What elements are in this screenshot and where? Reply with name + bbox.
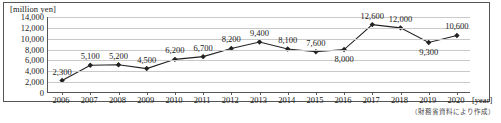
y-axis-tick-label: 2,000 <box>25 77 44 87</box>
data-point-label: 12,000 <box>388 14 413 24</box>
y-axis-tick-label: 4,000 <box>25 66 44 76</box>
x-axis-tick-label: 2016 <box>335 95 352 105</box>
x-axis-tick-label: 2013 <box>250 95 267 105</box>
data-point-label: 6,200 <box>164 45 185 55</box>
data-point-marker <box>200 54 205 59</box>
x-axis-tick-label: 2006 <box>53 95 70 105</box>
x-axis-tick-label: 2011 <box>194 95 211 105</box>
x-axis-tick-label: 2015 <box>306 95 323 105</box>
x-axis-tick-label: 2008 <box>109 95 126 105</box>
data-point-marker <box>454 33 459 38</box>
x-axis-tick-label: 2014 <box>278 95 295 105</box>
data-point-marker <box>426 40 431 45</box>
source-note: （財務省資料により作成） <box>411 106 495 116</box>
y-axis-tick-label: 0 <box>40 88 44 98</box>
x-axis-tick-label: 2007 <box>81 95 98 105</box>
x-axis-tick-label: 2017 <box>363 95 380 105</box>
data-point-label: 6,700 <box>193 43 214 53</box>
data-point-label: 8,200 <box>221 34 242 44</box>
x-axis-tick-labels: 2006200720082009201020112012201320142015… <box>47 95 470 109</box>
data-point-marker <box>116 62 121 67</box>
y-axis-tick-label: 8,000 <box>25 45 44 55</box>
data-point-label: 5,200 <box>108 51 129 61</box>
data-point-marker <box>88 63 93 68</box>
data-point-label: 12,600 <box>360 11 385 21</box>
data-point-label: 8,100 <box>277 35 298 45</box>
data-point-label: 9,300 <box>418 47 439 57</box>
data-point-label: 9,400 <box>249 28 270 38</box>
chart-figure: [million yen] 02,0004,0006,0008,00010,00… <box>0 0 501 123</box>
gridline <box>48 82 470 83</box>
x-axis-caption: [year] <box>472 95 492 105</box>
data-point-label: 10,600 <box>444 21 469 31</box>
plot-area: 2,3005,1005,2004,5006,2006,7008,2009,400… <box>47 17 470 93</box>
data-point-label: 4,500 <box>136 55 157 65</box>
data-point-label: 8,000 <box>334 54 355 64</box>
y-axis-tick-label: 6,000 <box>25 55 44 65</box>
data-point-label: 2,300 <box>52 67 73 77</box>
y-axis-tick-label: 10,000 <box>21 34 44 44</box>
data-point-label: 7,600 <box>305 38 326 48</box>
x-axis-tick-label: 2012 <box>222 95 239 105</box>
y-axis-tick-labels: 02,0004,0006,0008,00010,00012,00014,000 <box>0 17 46 93</box>
y-axis-tick-label: 12,000 <box>21 23 44 33</box>
data-point-label: 5,100 <box>80 51 101 61</box>
data-point-marker <box>257 39 262 44</box>
x-axis-tick-label: 2019 <box>419 95 436 105</box>
x-axis-tick-label: 2018 <box>391 95 408 105</box>
x-axis-tick-label: 2009 <box>137 95 154 105</box>
y-axis-tick-label: 14,000 <box>21 12 44 22</box>
gridline <box>48 71 470 72</box>
x-axis-tick-label: 2010 <box>165 95 182 105</box>
x-axis-tick-label: 2020 <box>447 95 464 105</box>
gridline <box>48 39 470 40</box>
